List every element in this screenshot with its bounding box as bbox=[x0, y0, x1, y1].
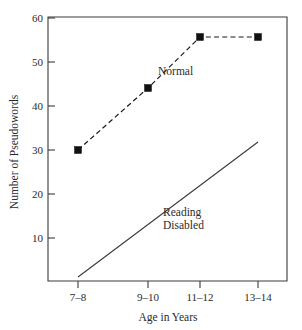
x-tick-label-13-14: 13–14 bbox=[244, 291, 272, 303]
plot-frame bbox=[48, 17, 287, 281]
y-axis-tick-labels: 60 50 40 30 20 10 bbox=[32, 12, 44, 244]
x-tick-label-9-10: 9–10 bbox=[137, 291, 160, 303]
pseudowords-line-chart: 60 50 40 30 20 10 7–8 9–10 11–12 13–14 A… bbox=[0, 0, 302, 330]
series-annotation-reading: Reading bbox=[163, 206, 202, 219]
y-axis-title: Number of Pseudowords bbox=[8, 94, 20, 209]
x-axis-tick-labels: 7–8 9–10 11–12 13–14 bbox=[70, 291, 273, 303]
y-axis-ticks bbox=[48, 18, 55, 238]
x-tick-label-7-8: 7–8 bbox=[70, 291, 87, 303]
data-point-normal-11-12 bbox=[197, 34, 204, 41]
y-tick-label-10: 10 bbox=[32, 232, 44, 244]
chart-figure: 60 50 40 30 20 10 7–8 9–10 11–12 13–14 A… bbox=[0, 0, 302, 330]
y-tick-label-40: 40 bbox=[32, 100, 44, 112]
series-annotation-normal: Normal bbox=[158, 65, 193, 77]
y-tick-label-20: 20 bbox=[32, 188, 44, 200]
data-point-normal-13-14 bbox=[255, 34, 262, 41]
x-axis-ticks bbox=[78, 281, 258, 288]
y-tick-label-50: 50 bbox=[32, 56, 44, 68]
y-tick-label-30: 30 bbox=[32, 144, 44, 156]
x-tick-label-11-12: 11–12 bbox=[186, 291, 213, 303]
series-markers-normal bbox=[75, 34, 262, 154]
x-axis-title: Age in Years bbox=[138, 311, 198, 324]
series-annotation-disabled: Disabled bbox=[163, 219, 204, 231]
series-line-normal bbox=[78, 37, 258, 150]
data-point-normal-9-10 bbox=[145, 85, 152, 92]
data-point-normal-7-8 bbox=[75, 147, 82, 154]
y-tick-label-60: 60 bbox=[32, 12, 44, 24]
